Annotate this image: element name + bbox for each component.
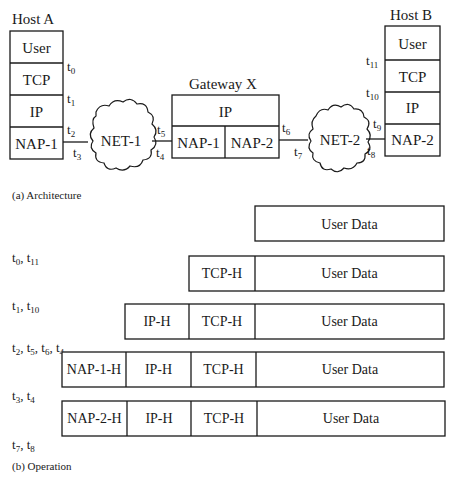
- host-a-layer-nap1: NAP-1: [15, 136, 58, 152]
- net1-cloud: NET-1: [90, 99, 156, 170]
- segment-ip-h: IP-H: [145, 411, 172, 426]
- segment-tcp-h: TCP-H: [202, 266, 242, 281]
- time-label-t6: t6: [282, 120, 291, 137]
- host-a-layer-tcp: TCP: [23, 72, 51, 88]
- row-2-time-label: t1, t10: [12, 298, 40, 315]
- packet-row-1: User Data: [255, 206, 444, 241]
- segment-tcp-h: TCP-H: [204, 411, 244, 426]
- row-3-time-label: t2, t5, t6, t4: [12, 340, 65, 357]
- host-a-layer-ip: IP: [30, 104, 43, 120]
- row-1-time-label: t0, t11: [12, 250, 39, 267]
- time-label-t10: t10: [366, 85, 379, 102]
- segment-tcp-h: TCP-H: [202, 314, 242, 329]
- segment-nap1-h: NAP-1-H: [67, 362, 121, 377]
- host-b: Host B User TCP IP NAP-2 t11 t10 t9: [366, 7, 440, 156]
- segment-user-data: User Data: [321, 266, 378, 281]
- packet-row-5: NAP-2-H IP-H TCP-H User Data: [62, 401, 445, 436]
- packet-row-3: IP-H TCP-H User Data: [125, 304, 444, 339]
- row-5-time-label: t7, t8: [12, 437, 35, 454]
- segment-user-data: User Data: [323, 411, 380, 426]
- gateway-layer-nap1: NAP-1: [177, 135, 220, 151]
- time-label-t2: t2: [67, 122, 75, 139]
- time-label-t3: t3: [73, 145, 82, 162]
- packet-row-4: NAP-1-H IP-H TCP-H User Data: [62, 352, 444, 387]
- segment-ip-h: IP-H: [143, 314, 170, 329]
- net1-label: NET-1: [101, 133, 141, 149]
- row-4-time-label: t3, t4: [12, 388, 35, 405]
- segment-nap2-h: NAP-2-H: [67, 411, 121, 426]
- segment-user-data: User Data: [321, 217, 378, 232]
- host-b-title: Host B: [390, 7, 432, 23]
- host-a-layer-user: User: [22, 40, 50, 56]
- segment-ip-h: IP-H: [145, 362, 172, 377]
- gateway-x: Gateway X IP NAP-1 NAP-2: [172, 76, 279, 158]
- time-label-t5: t5: [157, 122, 166, 139]
- net2-label: NET-2: [320, 132, 360, 148]
- host-b-layer-nap2: NAP-2: [391, 132, 434, 148]
- host-b-layer-ip: IP: [406, 100, 419, 116]
- time-label-t0: t0: [67, 59, 76, 76]
- time-label-t4: t4: [156, 145, 165, 162]
- host-b-layer-tcp: TCP: [399, 69, 427, 85]
- operation-caption: (b) Operation: [12, 460, 72, 473]
- gateway-layer-nap2: NAP-2: [231, 135, 274, 151]
- time-label-t7: t7: [294, 144, 303, 161]
- time-label-t8: t8: [367, 143, 376, 160]
- time-label-t1: t1: [67, 91, 75, 108]
- segment-user-data: User Data: [321, 314, 378, 329]
- segment-tcp-h: TCP-H: [203, 362, 243, 377]
- host-b-layer-user: User: [398, 36, 426, 52]
- net2-cloud: NET-2: [309, 104, 370, 171]
- host-a-title: Host A: [12, 11, 54, 27]
- gateway-layer-ip: IP: [219, 104, 232, 120]
- time-label-t11: t11: [366, 53, 378, 70]
- packet-row-2: TCP-H User Data: [189, 256, 444, 291]
- segment-user-data: User Data: [322, 362, 379, 377]
- architecture-caption: (a) Architecture: [12, 189, 81, 202]
- tcp-ip-diagram: Host A User TCP IP NAP-1 t0 t1 t2 t3 NET…: [0, 0, 455, 479]
- host-a: Host A User TCP IP NAP-1 t0 t1 t2 t3: [10, 11, 82, 162]
- time-label-t9: t9: [373, 116, 382, 133]
- gateway-title: Gateway X: [189, 76, 257, 92]
